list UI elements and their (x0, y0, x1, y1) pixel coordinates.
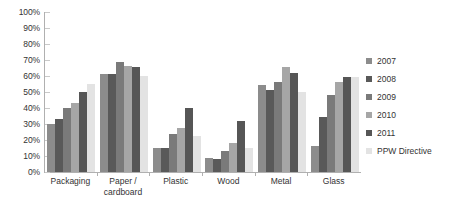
legend-swatch-icon (366, 76, 372, 82)
bar-groups (45, 12, 361, 172)
bar (205, 158, 213, 172)
legend-item[interactable]: 2010 (366, 106, 453, 124)
bar (161, 148, 169, 172)
bar-group (98, 12, 151, 172)
bar (351, 77, 359, 172)
bar (282, 67, 290, 172)
x-axis-label: Wood (202, 176, 255, 197)
y-tick-label: 0% (28, 168, 40, 177)
bar (266, 90, 274, 172)
legend-label: 2009 (377, 93, 396, 102)
legend-item[interactable]: PPW Directive (366, 142, 453, 160)
legend-swatch-icon (366, 148, 372, 154)
x-axis-label: Glass (307, 176, 360, 197)
bar (335, 82, 343, 172)
legend-item[interactable]: 2009 (366, 88, 453, 106)
gridline (45, 172, 50, 173)
bar (213, 159, 221, 172)
x-axis-label: Plastic (149, 176, 202, 197)
bar-group (203, 12, 256, 172)
bar-group (308, 12, 361, 172)
bar (169, 134, 177, 172)
y-tick-label: 50% (23, 88, 40, 97)
bar (274, 82, 282, 172)
chart-legend: 20072008200920102011PPW Directive (366, 52, 453, 160)
bar (177, 128, 185, 172)
bar (79, 92, 87, 172)
legend-label: 2011 (377, 129, 395, 138)
bar (108, 74, 116, 172)
bar-group (45, 12, 98, 172)
y-tick-label: 90% (23, 24, 40, 33)
y-tick-label: 10% (23, 152, 40, 161)
legend-swatch-icon (366, 58, 372, 64)
x-axis-label: Metal (255, 176, 308, 197)
bar (71, 103, 79, 172)
legend-swatch-icon (366, 112, 372, 118)
legend-label: PPW Directive (377, 147, 432, 156)
y-tick-label: 100% (19, 8, 40, 17)
legend-swatch-icon (366, 94, 372, 100)
bar (237, 121, 245, 172)
bar (47, 124, 55, 172)
bar (124, 66, 132, 172)
plot-area (44, 12, 361, 173)
y-tick-label: 40% (23, 104, 40, 113)
y-axis: 100%90%80%70%60%50%40%30%20%10%0% (0, 6, 44, 178)
bar (245, 148, 253, 172)
legend-label: 2008 (377, 75, 396, 84)
legend-label: 2010 (377, 111, 396, 120)
bar-group (256, 12, 309, 172)
legend-swatch-icon (366, 130, 372, 136)
legend-item[interactable]: 2008 (366, 70, 453, 88)
bar (343, 77, 351, 172)
y-tick-label: 30% (23, 120, 40, 129)
bar (87, 84, 95, 172)
bar (55, 119, 63, 172)
bar (140, 76, 148, 172)
legend-item[interactable]: 2011 (366, 124, 453, 142)
bar (193, 136, 201, 172)
bar (132, 67, 140, 172)
bar (229, 143, 237, 172)
x-axis-labels: PackagingPaper / cardboardPlasticWoodMet… (44, 176, 360, 197)
bar (290, 73, 298, 172)
bar (327, 95, 335, 172)
y-tick-label: 70% (23, 56, 40, 65)
bar (258, 85, 266, 172)
legend-item[interactable]: 2007 (366, 52, 453, 70)
x-axis-label: Packaging (44, 176, 97, 197)
bar (319, 117, 327, 172)
legend-label: 2007 (377, 57, 396, 66)
y-tick-label: 80% (23, 40, 40, 49)
bar-group (150, 12, 203, 172)
bar (100, 74, 108, 172)
bar (185, 108, 193, 172)
y-tick-label: 20% (23, 136, 40, 145)
bar (116, 62, 124, 172)
bar (298, 92, 306, 172)
bar (311, 146, 319, 172)
bar (153, 148, 161, 172)
bar-chart: 100%90%80%70%60%50%40%30%20%10%0% Packag… (0, 0, 453, 217)
x-axis-label: Paper / cardboard (97, 176, 150, 197)
bar (63, 108, 71, 172)
y-tick-label: 60% (23, 72, 40, 81)
bar (221, 151, 229, 172)
